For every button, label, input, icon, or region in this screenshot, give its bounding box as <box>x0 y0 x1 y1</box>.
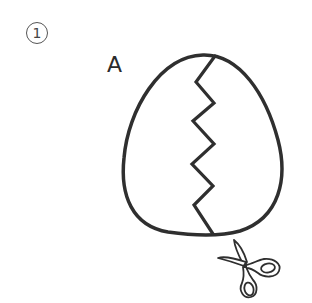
zigzag-cut-line <box>192 56 215 234</box>
egg-outline <box>123 55 282 235</box>
egg-cutting-diagram <box>0 0 312 303</box>
scissors-icon <box>218 240 280 297</box>
